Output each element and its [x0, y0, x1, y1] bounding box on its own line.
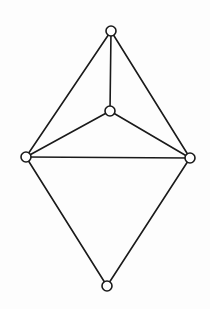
node-center — [105, 106, 115, 116]
edge-top-right — [111, 31, 190, 158]
edges-group — [26, 31, 190, 286]
graph-diagram — [0, 0, 210, 309]
node-bottom — [102, 281, 112, 291]
edge-left-bottom — [26, 157, 107, 286]
edge-top-left — [26, 31, 111, 157]
edge-right-bottom — [107, 158, 190, 286]
edge-center-left — [26, 111, 110, 157]
node-left — [21, 152, 31, 162]
edge-top-center — [110, 31, 111, 111]
node-top — [106, 26, 116, 36]
edge-center-right — [110, 111, 190, 158]
node-right — [185, 153, 195, 163]
edge-left-right — [26, 157, 190, 158]
